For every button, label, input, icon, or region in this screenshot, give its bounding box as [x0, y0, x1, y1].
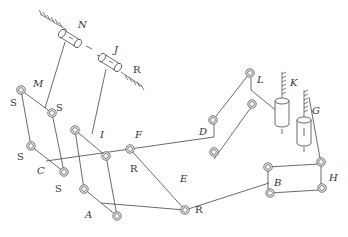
mechanism-diagram: N J R	[0, 0, 348, 237]
label-n: N	[77, 19, 88, 30]
joint-b-lower	[266, 189, 274, 197]
ground-hatch-n	[39, 10, 67, 30]
joint-a-lower	[113, 212, 121, 220]
label-s2: S	[56, 102, 63, 113]
joint-h-lower	[318, 184, 326, 192]
joint-l-lower	[248, 100, 256, 108]
joints	[17, 69, 326, 220]
label-r-mid: R	[130, 163, 138, 174]
label-k: K	[289, 77, 298, 88]
cylinder-j	[97, 52, 123, 73]
label-d: D	[198, 126, 207, 137]
label-r-bottom: R	[195, 204, 203, 215]
joint-f	[126, 145, 134, 153]
joint-i-upper	[71, 126, 79, 134]
joint-d-lower	[210, 148, 218, 156]
joint-s-upper	[48, 109, 56, 117]
cylinder-g	[297, 90, 311, 152]
cylinder-n	[57, 28, 92, 49]
joint-e	[181, 206, 189, 214]
joint-h-upper	[317, 158, 325, 166]
links	[21, 42, 321, 216]
joint-b-upper	[264, 163, 272, 171]
label-s4: S	[55, 183, 62, 194]
label-j: J	[112, 44, 119, 55]
joint-s-left	[27, 142, 35, 150]
label-a: A	[84, 209, 92, 220]
label-c: C	[37, 165, 45, 176]
cylinder-k	[275, 72, 289, 134]
label-l: L	[256, 74, 264, 85]
joint-i-lower	[102, 152, 110, 160]
label-f: F	[134, 129, 143, 140]
joint-m	[17, 86, 25, 94]
label-i: I	[99, 129, 105, 140]
label-r-top: R	[133, 64, 141, 75]
label-h: H	[328, 172, 338, 183]
joint-a-upper	[80, 185, 88, 193]
label-b: B	[273, 177, 281, 188]
joint-s-lower	[60, 168, 68, 176]
label-g: G	[312, 105, 320, 116]
joint-d-upper	[209, 116, 217, 124]
label-s1: S	[10, 97, 17, 108]
label-m: M	[32, 78, 44, 89]
label-s3: S	[17, 151, 24, 162]
label-e: E	[179, 173, 188, 184]
joint-l	[246, 69, 254, 77]
